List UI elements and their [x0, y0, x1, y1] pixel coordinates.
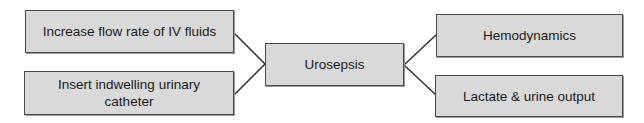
node-lactate-urine-output: Lactate & urine output — [435, 75, 623, 117]
node-urosepsis-center: Urosepsis — [265, 43, 404, 86]
node-insert-urinary-catheter: Insert indwelling urinary catheter — [24, 71, 234, 115]
node-label: Increase flow rate of IV fluids — [43, 23, 216, 40]
concept-map-diagram: Increase flow rate of IV fluids Insert i… — [0, 0, 644, 123]
edge-urosepsis-to-hemodynamics — [404, 35, 436, 65]
edge-insert-to-urosepsis — [234, 64, 265, 95]
node-label: Hemodynamics — [483, 27, 576, 44]
edge-increase-to-urosepsis — [234, 33, 265, 64]
node-increase-iv-fluids: Increase flow rate of IV fluids — [25, 10, 234, 53]
node-label: Insert indwelling urinary catheter — [49, 76, 209, 110]
edge-urosepsis-to-lactate — [404, 65, 436, 95]
node-label: Urosepsis — [304, 56, 364, 73]
node-hemodynamics: Hemodynamics — [436, 14, 623, 57]
node-label: Lactate & urine output — [463, 88, 595, 105]
